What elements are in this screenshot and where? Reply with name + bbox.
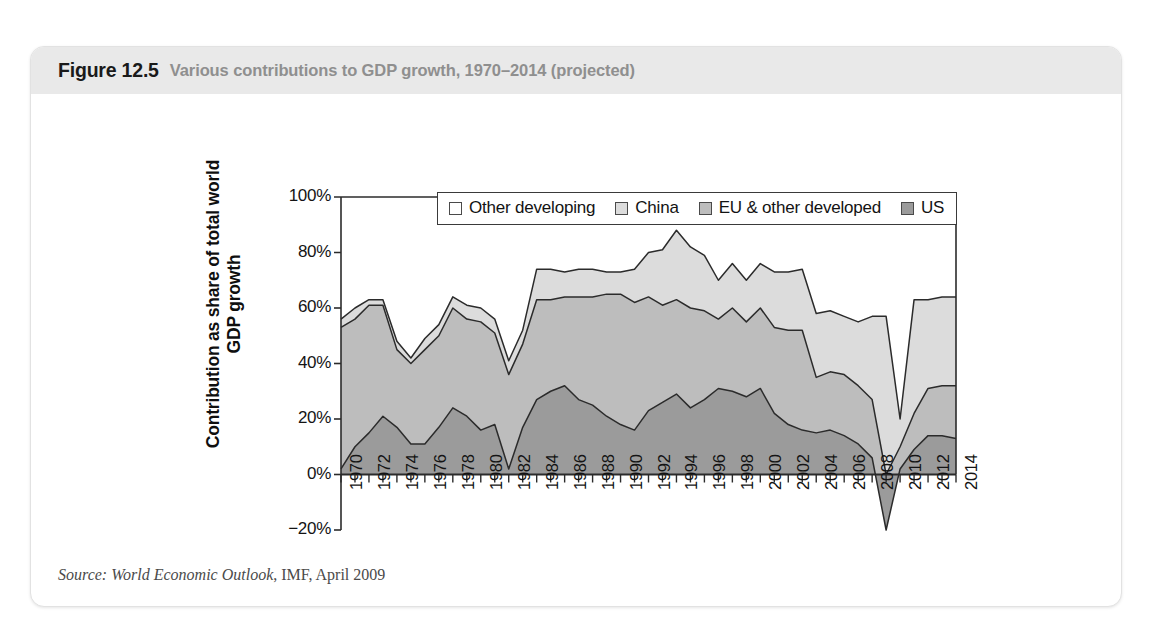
page-root: Figure 12.5 Various contributions to GDP… <box>0 0 1160 636</box>
y-tick-label: 100% <box>255 186 331 206</box>
figure-card: Figure 12.5 Various contributions to GDP… <box>30 46 1122 607</box>
legend-swatch-china <box>615 202 628 215</box>
y-axis-title-wrapper: Contribution as share of total world GDP… <box>203 154 247 454</box>
y-tick-label: −20% <box>255 519 331 539</box>
x-tick-label: 2010 <box>906 454 925 490</box>
x-tick-label: 1994 <box>682 454 701 490</box>
y-tick-label: 40% <box>255 353 331 373</box>
x-tick-label: 1996 <box>710 454 729 490</box>
legend-label-china: China <box>635 198 678 218</box>
x-tick-label: 1974 <box>403 454 422 490</box>
x-tick-label: 1976 <box>431 454 450 490</box>
legend-item-other-developing: Other developing <box>449 198 595 218</box>
x-tick-label: 1972 <box>375 454 394 490</box>
x-tick-label: 1982 <box>515 454 534 490</box>
y-axis-title: Contribution as share of total world GDP… <box>203 154 245 454</box>
x-tick-label: 1998 <box>738 454 757 490</box>
x-tick-label: 2006 <box>850 454 869 490</box>
x-tick-label: 2014 <box>962 454 981 490</box>
figure-number: Figure 12.5 <box>58 59 159 82</box>
source-rest: , IMF, April 2009 <box>273 566 385 583</box>
x-tick-label: 1990 <box>627 454 646 490</box>
x-tick-label: 1992 <box>655 454 674 490</box>
x-tick-label: 1978 <box>459 454 478 490</box>
source-label: Source: <box>58 566 107 583</box>
x-tick-label: 2008 <box>878 454 897 490</box>
x-tick-label: 1988 <box>599 454 618 490</box>
x-tick-label: 1984 <box>543 454 562 490</box>
y-tick-label: 20% <box>255 408 331 428</box>
stacked-area-chart <box>31 94 1122 607</box>
legend-label-us: US <box>921 198 944 218</box>
legend-label-eu-other-developed: EU & other developed <box>719 198 881 218</box>
y-tick-label: 0% <box>255 464 331 484</box>
x-tick-label: 2002 <box>794 454 813 490</box>
legend-label-other-developing: Other developing <box>469 198 595 218</box>
legend-item-china: China <box>615 198 678 218</box>
chart-plot-area: Contribution as share of total world GDP… <box>31 94 1122 607</box>
x-tick-label: 1986 <box>571 454 590 490</box>
x-tick-label: 1980 <box>487 454 506 490</box>
legend-swatch-other-developing <box>449 202 462 215</box>
chart-legend: Other developing China EU & other develo… <box>437 192 957 225</box>
legend-item-us: US <box>901 198 944 218</box>
figure-source: Source: World Economic Outlook, IMF, Apr… <box>58 566 385 584</box>
figure-caption-band: Figure 12.5 Various contributions to GDP… <box>31 47 1122 94</box>
legend-item-eu-other-developed: EU & other developed <box>699 198 881 218</box>
legend-swatch-eu-other-developed <box>699 202 712 215</box>
x-tick-label: 2004 <box>822 454 841 490</box>
x-tick-label: 1970 <box>347 454 366 490</box>
legend-swatch-us <box>901 202 914 215</box>
source-publication: World Economic Outlook <box>111 566 273 583</box>
x-tick-label: 2000 <box>766 454 785 490</box>
x-tick-label: 2012 <box>934 454 953 490</box>
figure-caption-title: Various contributions to GDP growth, 197… <box>170 61 635 80</box>
y-tick-label: 60% <box>255 297 331 317</box>
y-tick-label: 80% <box>255 242 331 262</box>
